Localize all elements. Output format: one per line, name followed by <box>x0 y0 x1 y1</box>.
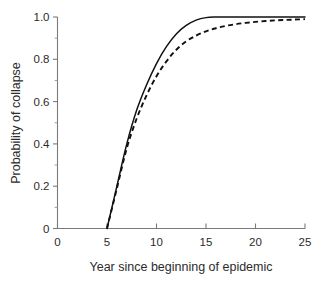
x-tick-label: 25 <box>299 236 312 248</box>
x-axis-tick-labels: 0510152025 <box>54 236 311 248</box>
chart-series-layer <box>107 17 305 229</box>
y-tick-label: 0 <box>43 223 49 235</box>
x-tick-label: 20 <box>249 236 262 248</box>
chart-figure: 00.20.40.60.81.0 0510152025 Probability … <box>0 0 327 284</box>
y-tick-label: 0.2 <box>34 180 50 192</box>
chart-plot-area: 00.20.40.60.81.0 0510152025 Probability … <box>0 0 327 284</box>
x-axis-major-ticks <box>58 224 306 229</box>
x-tick-label: 10 <box>150 236 163 248</box>
x-tick-label: 0 <box>54 236 60 248</box>
y-axis-tick-labels: 00.20.40.60.81.0 <box>34 11 51 235</box>
y-axis-title: Probability of collapse <box>9 62 23 184</box>
x-axis-title: Year since beginning of epidemic <box>90 260 273 274</box>
y-tick-label: 1.0 <box>34 11 50 23</box>
x-tick-label: 15 <box>200 236 213 248</box>
series-solid-curve <box>107 17 305 229</box>
y-tick-label: 0.4 <box>34 138 51 150</box>
y-tick-label: 0.8 <box>34 53 50 65</box>
series-dashed-curve <box>107 19 305 228</box>
x-tick-label: 5 <box>104 236 110 248</box>
y-tick-label: 0.6 <box>34 96 50 108</box>
